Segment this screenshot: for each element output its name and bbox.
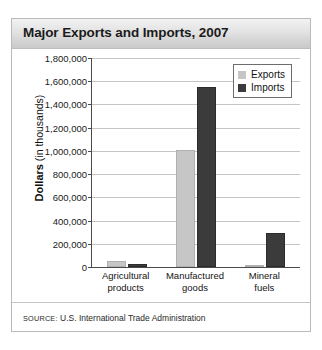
x-axis-label: Mineralfuels [230, 270, 299, 293]
plot-area: Exports Imports [91, 58, 300, 268]
legend-swatch-imports-icon [238, 84, 246, 92]
chart-legend: Exports Imports [233, 64, 292, 98]
bar-imports-manufactured-goods [197, 87, 216, 267]
y-axis-tickmark [88, 267, 92, 268]
bar-imports-mineral-fuels [266, 233, 285, 267]
x-axis-label-line: fuels [230, 282, 299, 294]
x-axis-label-line: Manufactured [160, 270, 229, 282]
bar-imports-agricultural-products [128, 264, 147, 267]
legend-item-exports: Exports [238, 68, 285, 81]
source-label: SOURCE: [23, 314, 58, 323]
x-axis-label-line: Mineral [230, 270, 299, 282]
x-axis-label-line: Agricultural [91, 270, 160, 282]
legend-label-imports: Imports [251, 82, 284, 93]
y-axis-tick-label: 200,000 [32, 238, 87, 249]
y-axis-tick-label: 1,400,000 [32, 99, 87, 110]
page-title: Major Exports and Imports, 2007 [23, 25, 228, 40]
y-axis-tick-label: 800,000 [32, 169, 87, 180]
bar-exports-manufactured-goods [176, 150, 195, 267]
bar-exports-agricultural-products [107, 261, 126, 267]
legend-item-imports: Imports [238, 81, 285, 94]
y-axis-tick-label: 1,800,000 [32, 53, 87, 64]
x-axis-label: Manufacturedgoods [160, 270, 229, 293]
legend-swatch-exports-icon [238, 71, 246, 79]
x-axis-label-line: goods [160, 282, 229, 294]
title-band: Major Exports and Imports, 2007 [12, 19, 310, 49]
chart-body: Dollars (in thousands) 0200,000400,00060… [12, 50, 310, 302]
y-axis-tick-label: 1,000,000 [32, 145, 87, 156]
y-axis-tick-label: 600,000 [32, 192, 87, 203]
y-axis-tick-label: 1,600,000 [32, 76, 87, 87]
y-axis-tick-labels: 0200,000400,000600,000800,0001,000,0001,… [32, 50, 87, 302]
source-note: SOURCE: U.S. International Trade Adminis… [23, 313, 206, 323]
y-axis-tick-label: 1,200,000 [32, 122, 87, 133]
source-divider [12, 302, 310, 303]
bar-group [107, 58, 147, 267]
y-axis-tick-label: 0 [32, 262, 87, 273]
x-axis-label: Agriculturalproducts [91, 270, 160, 293]
bar-exports-mineral-fuels [245, 265, 264, 267]
legend-label-exports: Exports [251, 69, 285, 80]
figure-panel: Major Exports and Imports, 2007 Dollars … [11, 18, 311, 332]
x-axis-label-line: products [91, 282, 160, 294]
x-axis-category-labels: AgriculturalproductsManufacturedgoodsMin… [91, 270, 300, 300]
y-axis-tick-label: 400,000 [32, 215, 87, 226]
bar-group [176, 58, 216, 267]
source-text: U.S. International Trade Administration [58, 313, 206, 323]
